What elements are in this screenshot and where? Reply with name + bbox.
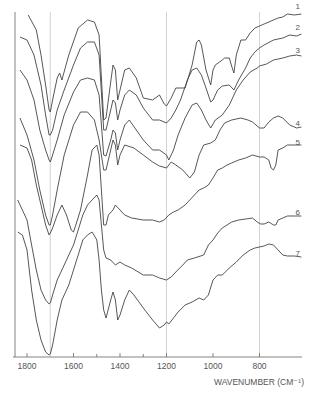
spectrum-curves	[18, 14, 302, 355]
tick-label-1400: 1400	[111, 361, 130, 371]
tick-label-1000: 1000	[204, 361, 223, 371]
curve-label-6: 6	[296, 208, 301, 217]
spectrum-curve-1	[28, 14, 301, 120]
tick-label-1200: 1200	[157, 361, 176, 371]
curve-label-1: 1	[296, 2, 301, 11]
x-axis-title: WAVENUMBER (CM⁻¹)	[214, 377, 304, 387]
tick-label-800: 800	[252, 361, 266, 371]
tick-label-1800: 1800	[18, 361, 37, 371]
curve-label-4: 4	[296, 119, 301, 128]
spectrum-curve-7	[18, 232, 302, 355]
ir-spectrum-chart: 18001600140012001000800 1234567 WAVENUMB…	[0, 0, 313, 395]
curve-label-3: 3	[296, 46, 301, 55]
curve-label-2: 2	[296, 23, 301, 32]
x-axis-ticks: 18001600140012001000800	[18, 353, 267, 371]
tick-label-1600: 1600	[64, 361, 83, 371]
reference-lines	[50, 12, 259, 357]
curve-label-7: 7	[296, 249, 301, 258]
curve-labels: 1234567	[296, 2, 301, 258]
curve-label-5: 5	[296, 138, 301, 147]
spectrum-curve-6	[18, 195, 302, 304]
